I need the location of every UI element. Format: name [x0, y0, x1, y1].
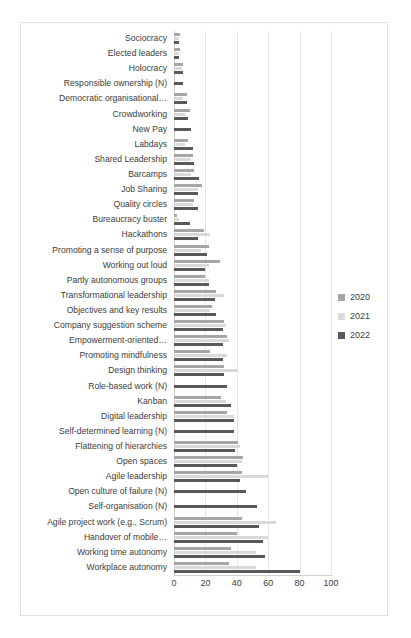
legend-swatch-icon: [338, 313, 345, 320]
bar-2020: [174, 275, 205, 278]
bar-2021: [174, 475, 268, 478]
bar-2020: [174, 471, 242, 474]
bar-group: [174, 167, 331, 182]
bar-2020: [174, 33, 180, 36]
bar-2021: [174, 249, 201, 252]
bar-2021: [174, 97, 183, 100]
gridline-100: [331, 31, 332, 575]
legend-item-2020[interactable]: 2020: [338, 292, 398, 302]
category-label: Design thinking: [21, 363, 171, 378]
category-label: Elected leaders: [21, 46, 171, 61]
bar-2022: [174, 490, 246, 493]
legend-item-2021[interactable]: 2021: [338, 311, 398, 321]
bar-2022: [174, 128, 191, 131]
category-label: Promoting a sense of purpose: [21, 243, 171, 258]
bar-2020: [174, 365, 224, 368]
bar-2021: [174, 37, 179, 40]
category-label: Working time autonomy: [21, 545, 171, 560]
bar-2020: [174, 48, 180, 51]
category-label: Hackathons: [21, 227, 171, 242]
bar-2022: [174, 505, 257, 508]
bar-2020: [174, 517, 242, 520]
bar-2021: [174, 279, 209, 282]
bar-group: [174, 46, 331, 61]
bar-2022: [174, 41, 179, 44]
legend-swatch-icon: [338, 332, 345, 339]
bar-group: [174, 499, 331, 514]
bar-2022: [174, 343, 223, 346]
bar-2021: [174, 566, 256, 569]
category-label: Working out loud: [21, 258, 171, 273]
bar-2022: [174, 525, 259, 528]
bar-2020: [174, 320, 224, 323]
bar-2020: [174, 154, 193, 157]
category-label: Labdays: [21, 137, 171, 152]
bar-2020: [174, 411, 227, 414]
category-label: Handover of mobile…: [21, 530, 171, 545]
bar-2021: [174, 521, 276, 524]
bar-2022: [174, 222, 190, 225]
bar-2021: [174, 158, 191, 161]
bar-2022: [174, 101, 187, 104]
bar-group: [174, 258, 331, 273]
bar-group: [174, 152, 331, 167]
bar-group: [174, 243, 331, 258]
bar-2022: [174, 162, 194, 165]
legend-label: 2022: [350, 330, 370, 340]
bar-group: [174, 318, 331, 333]
bar-2020: [174, 441, 238, 444]
bar-2020: [174, 532, 237, 535]
category-label: Democratic organisational…: [21, 91, 171, 106]
category-label: Bureaucracy buster: [21, 212, 171, 227]
bar-group: [174, 303, 331, 318]
bar-2020: [174, 335, 227, 338]
bar-2022: [174, 555, 265, 558]
bar-2020: [174, 93, 187, 96]
bar-2021: [174, 460, 242, 463]
bar-2022: [174, 404, 231, 407]
bar-group: [174, 439, 331, 454]
bar-group: [174, 409, 331, 424]
bar-group: [174, 227, 331, 242]
category-label: Responsible ownership (N): [21, 76, 171, 91]
bar-2021: [174, 233, 210, 236]
bar-2022: [174, 56, 179, 59]
category-label: Barcamps: [21, 167, 171, 182]
bar-2021: [174, 445, 240, 448]
bar-group: [174, 137, 331, 152]
category-label: Workplace autonomy: [21, 560, 171, 575]
legend-item-2022[interactable]: 2022: [338, 330, 398, 340]
category-label: Partly autonomous groups: [21, 273, 171, 288]
bar-2022: [174, 253, 207, 256]
x-tick-label: 80: [295, 578, 305, 588]
bar-group: [174, 333, 331, 348]
category-label: Agile project work (e.g., Scrum): [21, 515, 171, 530]
bar-2022: [174, 147, 193, 150]
category-label: Agile leadership: [21, 469, 171, 484]
bar-2020: [174, 396, 221, 399]
bar-group: [174, 363, 331, 378]
x-tick-label: 60: [263, 578, 273, 588]
bar-2021: [174, 113, 185, 116]
category-label: Transformational leadership: [21, 288, 171, 303]
bar-2022: [174, 82, 183, 85]
bar-2020: [174, 214, 177, 217]
bar-2022: [174, 283, 209, 286]
bar-group: [174, 31, 331, 46]
bar-group: [174, 107, 331, 122]
bar-rows: [174, 31, 331, 575]
bar-2022: [174, 464, 237, 467]
x-axis-ticks: 020406080100: [174, 578, 331, 592]
bar-2020: [174, 547, 231, 550]
category-label: Quality circles: [21, 197, 171, 212]
bar-2022: [174, 385, 227, 388]
category-label: Flattening of hierarchies: [21, 439, 171, 454]
category-label: Open culture of failure (N): [21, 484, 171, 499]
category-label: Self-determined learning (N): [21, 424, 171, 439]
bar-2022: [174, 358, 223, 361]
bar-2022: [174, 449, 235, 452]
bar-2021: [174, 536, 268, 539]
bar-2020: [174, 139, 188, 142]
bar-2021: [174, 218, 179, 221]
bar-2021: [174, 203, 193, 206]
